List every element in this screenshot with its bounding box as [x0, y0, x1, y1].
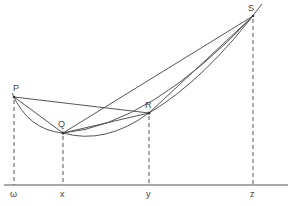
chord-P-R — [14, 97, 149, 113]
label-P: P — [13, 83, 19, 93]
point-P — [13, 96, 16, 99]
axis-label-y: y — [146, 189, 151, 199]
axis-label-x: x — [60, 189, 65, 199]
chord-R-S — [149, 16, 253, 113]
point-S — [252, 15, 255, 18]
convex-function-diagram: P Q R S ω x y z — [0, 0, 288, 206]
label-S: S — [248, 3, 254, 13]
label-R: R — [145, 100, 152, 110]
point-R — [148, 112, 151, 115]
label-Q: Q — [58, 119, 65, 129]
axis-label-omega: ω — [10, 189, 17, 199]
point-Q — [62, 132, 65, 135]
chord-Q-S — [63, 16, 253, 133]
axis-label-z: z — [250, 189, 255, 199]
